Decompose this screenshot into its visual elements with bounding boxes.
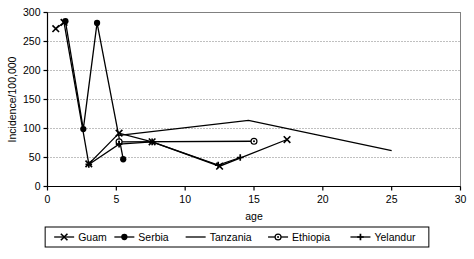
- y-tick-label-100: 100: [23, 122, 41, 134]
- x-tick-label-25: 25: [386, 193, 398, 205]
- x-tick-label-0: 0: [45, 193, 51, 205]
- series-line-ethiopia: [119, 141, 254, 142]
- datapoint-serbia-2: [94, 20, 100, 26]
- datapoint-serbia-3: [120, 156, 126, 162]
- x-axis-title: age: [245, 210, 263, 222]
- y-tick-label-150: 150: [23, 93, 41, 105]
- legend-label-guam: Guam: [78, 231, 107, 243]
- datapoint-serbia-1: [80, 126, 86, 132]
- y-tick-label-300: 300: [23, 6, 41, 18]
- y-tick-label-50: 50: [29, 151, 41, 163]
- y-tick-label-200: 200: [23, 64, 41, 76]
- legend-label-tanzania: Tanzania: [210, 231, 252, 243]
- x-tick-label-15: 15: [248, 193, 260, 205]
- y-tick-label-250: 250: [23, 35, 41, 47]
- chart-legend: GuamSerbiaTanzaniaEthiopiaYelandur: [45, 227, 429, 247]
- legend-marker-ethiopia-dot: [277, 236, 279, 238]
- chart-background: [0, 0, 474, 259]
- x-tick-label-10: 10: [179, 193, 191, 205]
- datapoint-serbia-0: [62, 18, 68, 24]
- legend-label-serbia: Serbia: [138, 231, 169, 243]
- y-axis-title: Incidence/100,000: [6, 56, 18, 142]
- legend-marker-serbia: [121, 234, 127, 240]
- incidence-by-age-line-chart: 050100150200250300 051015202530 Incidenc…: [0, 0, 474, 259]
- chart-figure: 050100150200250300 051015202530 Incidenc…: [0, 0, 474, 259]
- datapoint-ethiopia-1-dot: [253, 140, 255, 142]
- legend-label-yelandur: Yelandur: [374, 231, 416, 243]
- x-tick-label-5: 5: [113, 193, 119, 205]
- y-tick-label-0: 0: [35, 180, 41, 192]
- legend-label-ethiopia: Ethiopia: [292, 231, 330, 243]
- x-tick-label-20: 20: [317, 193, 329, 205]
- x-tick-label-30: 30: [455, 193, 467, 205]
